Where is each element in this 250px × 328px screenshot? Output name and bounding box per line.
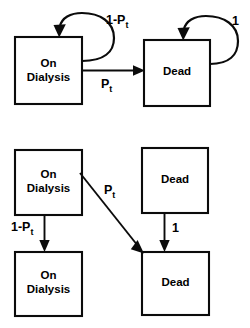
arrowhead-icon: [178, 27, 190, 40]
node-bot-on-dialysis: On Dialysis: [15, 252, 82, 316]
edge-mid-on-dialysis-to-bot-on-dialysis: [39, 215, 49, 252]
node-label-dead: Dead: [161, 276, 189, 288]
diagram-root: On Dialysis Dead On Dialysis Dead On: [0, 0, 250, 328]
node-label-line2: Dialysis: [27, 71, 70, 83]
node-bot-dead: Dead: [142, 252, 209, 315]
edge-label-bottom-one: 1: [172, 221, 179, 235]
edge-label-top-one: 1: [232, 14, 239, 28]
node-label-line2: Dialysis: [27, 182, 70, 194]
node-label-dead: Dead: [163, 65, 191, 77]
node-label-line1: On: [41, 57, 57, 69]
state-transition-diagram: On Dialysis Dead On Dialysis Dead On: [0, 0, 250, 328]
node-top-dead: Dead: [144, 40, 210, 106]
arrowhead-icon: [54, 24, 66, 37]
edge-label-top-one-minus-pt: 1-Pt: [106, 13, 128, 30]
node-label-line2: Dialysis: [27, 283, 70, 295]
edge-top-on-dialysis-to-dead: [82, 65, 145, 75]
arrowhead-icon: [159, 240, 169, 252]
node-top-on-dialysis: On Dialysis: [15, 37, 82, 104]
node-label-line1: On: [41, 269, 57, 281]
node-mid-dead: Dead: [142, 148, 208, 213]
node-label-dead: Dead: [161, 173, 189, 185]
node-label-line1: On: [41, 168, 57, 180]
edge-label-top-pt: Pt: [101, 77, 112, 94]
edge-label-bottom-one-minus-pt: 1-Pt: [11, 220, 33, 237]
edge-mid-dead-to-bot-dead: [159, 213, 169, 252]
edge-label-bottom-pt: Pt: [104, 183, 115, 200]
node-mid-on-dialysis: On Dialysis: [15, 150, 82, 215]
arrowhead-icon: [131, 240, 144, 254]
arrowhead-icon: [39, 240, 49, 252]
